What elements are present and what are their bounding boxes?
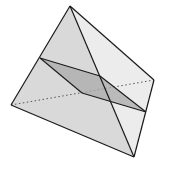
tetrahedron-diagram xyxy=(0,0,169,173)
